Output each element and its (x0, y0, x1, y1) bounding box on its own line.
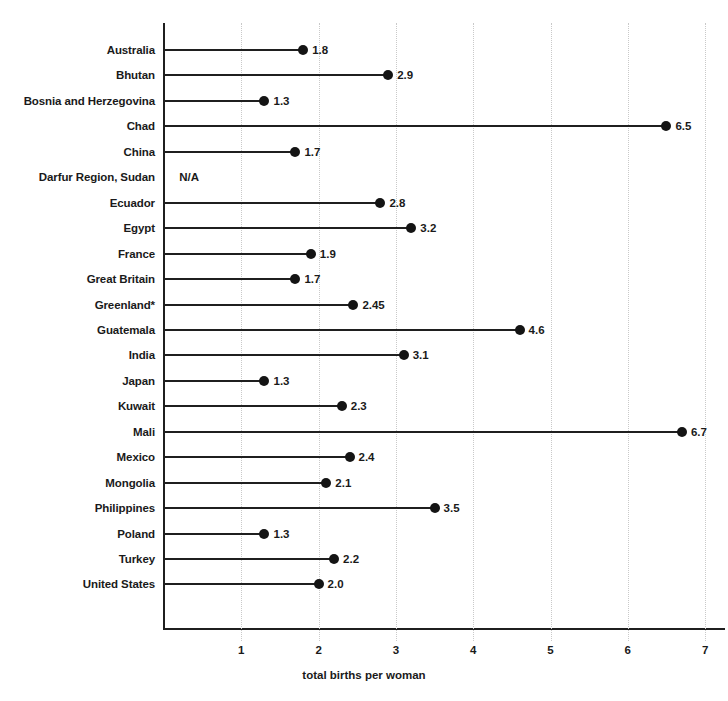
data-point-marker[interactable] (399, 350, 409, 360)
stem-line (164, 380, 264, 382)
data-point-marker[interactable] (321, 478, 331, 488)
stem-line (164, 329, 520, 331)
data-value-label: 1.9 (320, 246, 336, 262)
data-value-label: 1.8 (312, 42, 328, 58)
category-label: Philippines (0, 500, 155, 516)
x-tick-label-3: 3 (381, 644, 411, 656)
chart-row: Japan1.3 (0, 373, 728, 389)
data-point-marker[interactable] (314, 579, 324, 589)
chart-row: France1.9 (0, 246, 728, 262)
x-tick-label-2: 2 (304, 644, 334, 656)
data-value-label: 1.3 (273, 526, 289, 542)
category-label: France (0, 246, 155, 262)
stem-line (164, 74, 388, 76)
stem-line (164, 49, 303, 51)
category-label: India (0, 347, 155, 363)
x-axis-spine (163, 628, 725, 630)
data-value-label: 6.7 (691, 424, 707, 440)
x-tick-label-5: 5 (536, 644, 566, 656)
data-point-marker[interactable] (348, 300, 358, 310)
chart-row: Bhutan2.9 (0, 67, 728, 83)
stem-line (164, 533, 264, 535)
chart-row: Australia1.8 (0, 42, 728, 58)
data-value-label: 2.2 (343, 551, 359, 567)
stem-line (164, 405, 342, 407)
stem-line (164, 354, 404, 356)
data-value-label: 1.7 (304, 271, 320, 287)
data-value-label: 3.2 (420, 220, 436, 236)
data-value-label: 3.1 (413, 347, 429, 363)
stem-line (164, 456, 350, 458)
chart-row: Great Britain1.7 (0, 271, 728, 287)
stem-line (164, 227, 411, 229)
data-point-marker[interactable] (430, 503, 440, 513)
chart-row: Egypt3.2 (0, 220, 728, 236)
stem-line (164, 304, 353, 306)
category-label: Bosnia and Herzegovina (0, 93, 155, 109)
data-point-marker[interactable] (259, 96, 269, 106)
chart-row: Kuwait2.3 (0, 398, 728, 414)
category-label: Great Britain (0, 271, 155, 287)
data-point-marker[interactable] (306, 249, 316, 259)
chart-row: Turkey2.2 (0, 551, 728, 567)
lollipop-chart: Australia1.8Bhutan2.9Bosnia and Herzegov… (0, 0, 728, 701)
x-tick-label-4: 4 (458, 644, 488, 656)
x-axis-title: total births per woman (0, 669, 728, 681)
chart-row: Greenland*2.45 (0, 297, 728, 313)
data-point-marker[interactable] (345, 452, 355, 462)
category-label: United States (0, 576, 155, 592)
data-point-marker[interactable] (337, 401, 347, 411)
data-point-marker[interactable] (259, 376, 269, 386)
chart-row: India3.1 (0, 347, 728, 363)
category-label: Mexico (0, 449, 155, 465)
data-value-label: 2.1 (335, 475, 351, 491)
stem-line (164, 482, 326, 484)
data-point-marker[interactable] (661, 121, 671, 131)
stem-line (164, 151, 295, 153)
data-value-label: 2.3 (351, 398, 367, 414)
data-value-label: 2.4 (359, 449, 375, 465)
category-label: Chad (0, 118, 155, 134)
category-label: Poland (0, 526, 155, 542)
data-point-marker[interactable] (677, 427, 687, 437)
category-label: Mali (0, 424, 155, 440)
data-point-marker[interactable] (406, 223, 416, 233)
chart-row: Ecuador2.8 (0, 195, 728, 211)
chart-row: Mexico2.4 (0, 449, 728, 465)
chart-row: Philippines3.5 (0, 500, 728, 516)
data-point-marker[interactable] (290, 147, 300, 157)
data-point-marker[interactable] (298, 45, 308, 55)
data-value-label: 1.3 (273, 93, 289, 109)
data-point-marker[interactable] (375, 198, 385, 208)
x-tick-label-6: 6 (613, 644, 643, 656)
category-label: Ecuador (0, 195, 155, 211)
stem-line (164, 202, 380, 204)
stem-line (164, 558, 334, 560)
missing-value-label: N/A (179, 169, 199, 185)
data-value-label: 3.5 (444, 500, 460, 516)
stem-line (164, 507, 435, 509)
category-label: Bhutan (0, 67, 155, 83)
stem-line (164, 278, 295, 280)
data-value-label: 4.6 (529, 322, 545, 338)
data-value-label: 2.0 (328, 576, 344, 592)
data-point-marker[interactable] (329, 554, 339, 564)
category-label: Egypt (0, 220, 155, 236)
chart-row: United States2.0 (0, 576, 728, 592)
data-point-marker[interactable] (515, 325, 525, 335)
data-point-marker[interactable] (383, 70, 393, 80)
category-label: Australia (0, 42, 155, 58)
category-label: Mongolia (0, 475, 155, 491)
x-tick-label-7: 7 (690, 644, 720, 656)
x-tick-label-1: 1 (226, 644, 256, 656)
stem-line (164, 583, 319, 585)
category-label: Kuwait (0, 398, 155, 414)
data-point-marker[interactable] (290, 274, 300, 284)
chart-row: Mongolia2.1 (0, 475, 728, 491)
chart-row: Mali6.7 (0, 424, 728, 440)
chart-row: Poland1.3 (0, 526, 728, 542)
data-point-marker[interactable] (259, 529, 269, 539)
data-value-label: 2.45 (362, 297, 384, 313)
chart-row: China1.7 (0, 144, 728, 160)
data-value-label: 6.5 (675, 118, 691, 134)
